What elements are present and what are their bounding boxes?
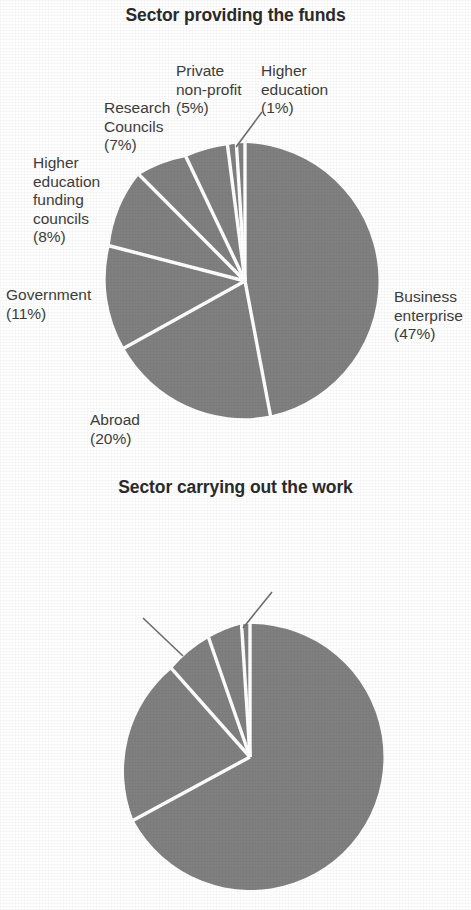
pie-label-abroad-funds: Abroad (20%) bbox=[90, 411, 140, 448]
pie-label-private-non-profit-funds: Private non-profit (5%) bbox=[176, 62, 241, 118]
pie-label-higher-education-funding-councils-funds: Higher education funding councils (8%) bbox=[33, 154, 100, 247]
pie-label-research-councils-funds: Research Councils (7%) bbox=[104, 99, 170, 155]
pie-chart-sector-carrying-out-work: Sector carrying out the work bbox=[0, 470, 471, 910]
leader-line-private-non-profit-work bbox=[243, 592, 272, 628]
pie-slices-work bbox=[124, 624, 383, 890]
pie-label-business-enterprise-funds: Business enterprise (47%) bbox=[394, 288, 463, 344]
pie-label-government-funds: Government (11%) bbox=[6, 286, 91, 323]
leader-line-government-work bbox=[143, 618, 183, 656]
pie-chart-sector-providing-funds: Sector providing the funds bbox=[0, 0, 471, 470]
pie-label-higher-education-funds: Higher education (1%) bbox=[261, 62, 328, 118]
pie-graphic-work bbox=[0, 470, 471, 910]
